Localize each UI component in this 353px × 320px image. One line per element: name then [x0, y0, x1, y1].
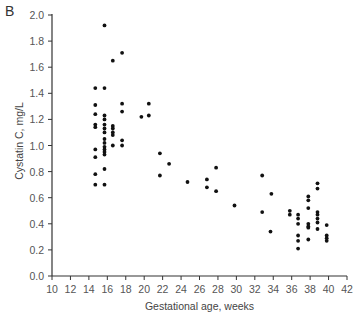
data-point [316, 217, 320, 221]
data-point [296, 222, 300, 226]
data-point [325, 239, 329, 243]
y-tick-label: 1.6 [29, 61, 44, 73]
data-point [316, 221, 320, 225]
y-tick-label: 1.4 [29, 87, 44, 99]
x-tick-label: 12 [65, 283, 77, 295]
data-point [111, 59, 115, 63]
data-point [306, 195, 310, 199]
data-point [103, 131, 107, 135]
x-tick-label: 32 [249, 283, 261, 295]
data-point [296, 213, 300, 217]
data-point [93, 103, 97, 107]
data-point [288, 209, 292, 213]
data-point [103, 114, 107, 118]
data-point [296, 247, 300, 251]
data-point [120, 144, 124, 148]
data-point [260, 210, 264, 214]
data-point [325, 223, 329, 227]
data-point [296, 239, 300, 243]
y-tick-label: 0.4 [29, 218, 44, 230]
data-point [147, 102, 151, 106]
axes: 0.00.20.40.60.81.01.21.41.61.82.01012141… [29, 9, 353, 295]
scatter-plot: 0.00.20.40.60.81.01.21.41.61.82.01012141… [0, 0, 353, 320]
data-point [260, 174, 264, 178]
y-tick-label: 0.6 [29, 192, 44, 204]
data-point [306, 238, 310, 242]
data-point [103, 141, 107, 145]
x-tick-label: 24 [175, 283, 187, 295]
data-point [306, 198, 310, 202]
x-tick-label: 18 [120, 283, 132, 295]
x-tick-label: 34 [267, 283, 279, 295]
data-point [120, 102, 124, 106]
data-point [103, 127, 107, 131]
data-point [93, 155, 97, 159]
data-point [140, 115, 144, 119]
x-tick-label: 10 [46, 283, 58, 295]
data-point [93, 112, 97, 116]
data-point [214, 189, 218, 193]
x-tick-label: 36 [286, 283, 298, 295]
data-point [111, 144, 115, 148]
data-point [306, 206, 310, 210]
data-point [103, 24, 107, 28]
y-tick-label: 0.2 [29, 244, 44, 256]
data-point [316, 227, 320, 231]
x-tick-label: 40 [323, 283, 335, 295]
data-point [296, 217, 300, 221]
x-tick-label: 28 [212, 283, 224, 295]
data-point [93, 148, 97, 152]
data-point [93, 125, 97, 129]
x-tick-label: 22 [157, 283, 169, 295]
data-point [167, 162, 171, 166]
data-point [120, 138, 124, 142]
data-point [103, 167, 107, 171]
y-tick-label: 2.0 [29, 9, 44, 21]
data-point [205, 178, 209, 182]
x-tick-label: 30 [231, 283, 243, 295]
data-point [270, 192, 274, 196]
x-tick-label: 38 [304, 283, 316, 295]
data-point [103, 153, 107, 157]
data-point [316, 187, 320, 191]
data-point [120, 51, 124, 55]
data-point [111, 133, 115, 137]
data-point [111, 127, 115, 131]
x-tick-label: 42 [341, 283, 353, 295]
x-tick-label: 20 [138, 283, 150, 295]
y-tick-label: 0.8 [29, 166, 44, 178]
data-points [93, 24, 328, 251]
data-point [158, 151, 162, 155]
y-tick-label: 0.0 [29, 270, 44, 282]
data-point [316, 213, 320, 217]
data-point [269, 230, 273, 234]
y-tick-label: 1.2 [29, 113, 44, 125]
y-tick-label: 1.0 [29, 140, 44, 152]
x-tick-label: 26 [194, 283, 206, 295]
data-point [103, 137, 107, 141]
x-tick-label: 16 [101, 283, 113, 295]
y-tick-label: 1.8 [29, 35, 44, 47]
data-point [103, 86, 107, 90]
data-point [288, 213, 292, 217]
data-point [158, 174, 162, 178]
data-point [93, 183, 97, 187]
data-point [186, 180, 190, 184]
data-point [120, 110, 124, 114]
data-point [205, 185, 209, 189]
data-point [306, 226, 310, 230]
data-point [103, 118, 107, 122]
data-point [147, 114, 151, 118]
data-point [103, 183, 107, 187]
data-point [93, 86, 97, 90]
data-point [296, 234, 300, 238]
data-point [103, 123, 107, 127]
x-tick-label: 14 [83, 283, 95, 295]
data-point [93, 172, 97, 176]
data-point [214, 166, 218, 170]
data-point [316, 181, 320, 185]
data-point [233, 204, 237, 208]
